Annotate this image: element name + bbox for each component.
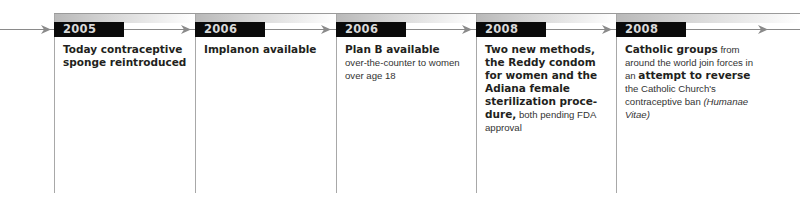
event-description: Catholic groups from around the world jo…	[625, 43, 753, 121]
event-headline-emphasis: Two new methods,	[485, 43, 595, 55]
year-label: 2008	[476, 22, 546, 37]
timeline-event-2005: 2005 Today contraceptive sponge reintrod…	[54, 14, 195, 193]
event-detail: over-the-counter to women over age 18	[345, 57, 460, 81]
event-headline: Plan B	[345, 43, 386, 55]
event-headline-emphasis: Catholic groups	[625, 43, 718, 55]
timeline-event-2006-planb: 2006 Plan B available over-the-counter t…	[336, 14, 477, 193]
event-headline-emphasis: reintroduced	[110, 56, 187, 68]
event-headline-emphasis: attempt to reverse	[638, 69, 750, 81]
event-headline-emphasis: available	[263, 43, 317, 55]
year-label: 2006	[195, 22, 265, 37]
panel-divider	[336, 14, 337, 193]
panel-divider	[616, 14, 617, 193]
event-description: Implanon available	[204, 43, 332, 56]
timeline-event-2008-catholic: 2008 Catholic groups from around the wor…	[616, 14, 757, 193]
panel-divider	[195, 14, 196, 193]
panel-divider	[476, 14, 477, 193]
year-label: 2005	[54, 22, 124, 37]
arrow-right-icon	[757, 24, 769, 35]
event-description: Two new methods, the Reddy condom for wo…	[485, 43, 609, 134]
timeline-event-2008-methods: 2008 Two new methods, the Reddy condom f…	[476, 14, 617, 193]
event-description: Today contraceptive sponge reintroduced	[63, 43, 191, 69]
event-headline: Implanon	[204, 43, 263, 55]
event-headline-emphasis: available	[386, 43, 440, 55]
event-description: Plan B available over-the-counter to wom…	[345, 43, 473, 82]
panel-divider	[54, 14, 55, 193]
arrow-right-icon	[40, 24, 52, 35]
year-label: 2008	[616, 22, 686, 37]
timeline-event-2006-implanon: 2006 Implanon available	[195, 14, 336, 193]
year-label: 2006	[336, 22, 406, 37]
